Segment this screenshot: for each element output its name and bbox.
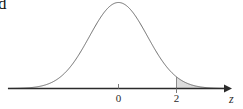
axis-tick-label-two: 2 — [169, 93, 184, 104]
axis-label-z: z — [229, 93, 234, 105]
corner-text-artifact: d — [0, 0, 7, 12]
axis-tick-label-zero: 0 — [111, 93, 126, 104]
normal-density-curve — [8, 2, 228, 88]
normal-curve-figure: d 0 2 z — [0, 0, 243, 109]
